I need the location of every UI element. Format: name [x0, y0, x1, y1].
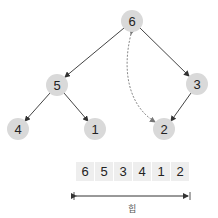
heap-array: 6 5 3 4 1 2: [76, 162, 189, 181]
svg-text:4: 4: [14, 122, 21, 137]
swap-arrow: [127, 34, 155, 122]
heap-span-label: 힙: [120, 202, 144, 215]
node-2: 2: [153, 118, 175, 140]
span-arrow: [74, 192, 190, 200]
node-6: 6: [121, 10, 143, 32]
array-cell: 4: [133, 162, 151, 181]
svg-text:5: 5: [53, 78, 60, 93]
edge-3-2: [171, 93, 191, 121]
array-cell: 3: [114, 162, 132, 181]
edge-6-3: [140, 28, 189, 76]
array-cell: 5: [95, 162, 113, 181]
svg-text:2: 2: [160, 122, 167, 137]
array-cell: 6: [76, 162, 94, 181]
edge-5-4: [25, 93, 50, 121]
svg-text:3: 3: [193, 77, 200, 92]
node-1: 1: [84, 118, 106, 140]
node-4: 4: [7, 118, 29, 140]
edge-6-5: [65, 28, 124, 77]
array-cell: 2: [171, 162, 189, 181]
svg-text:1: 1: [91, 122, 98, 137]
edge-5-1: [64, 93, 88, 121]
node-5: 5: [46, 74, 68, 96]
svg-text:6: 6: [128, 14, 135, 29]
node-3: 3: [186, 73, 208, 95]
heap-tree-diagram: 6 5 3 4 1 2: [0, 0, 218, 218]
array-cell: 1: [152, 162, 170, 181]
